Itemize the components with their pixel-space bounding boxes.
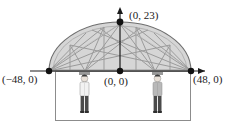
apex-point [117, 19, 124, 26]
right-base-label: (48, 0) [193, 74, 222, 85]
y-axis-arrow-icon [117, 7, 123, 14]
left-base-label: (−48, 0) [2, 74, 38, 85]
origin-label: (0, 0) [104, 76, 128, 87]
apex-label: (0, 23) [129, 10, 158, 21]
left-base-point [46, 68, 52, 74]
arch-truss-diagram [0, 0, 233, 123]
origin-point [117, 68, 123, 74]
